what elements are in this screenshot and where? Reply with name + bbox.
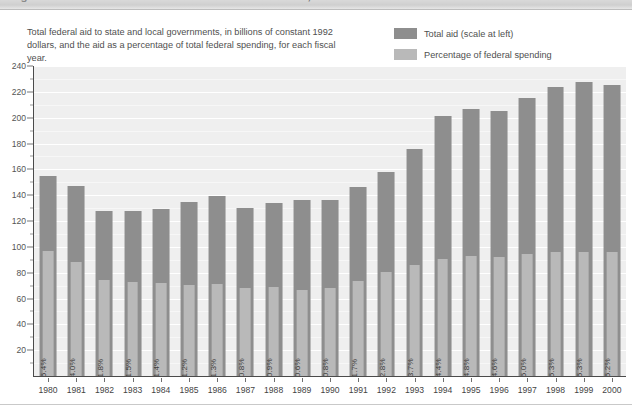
figure-title-bar: Figure 1Federal Aid to State and Local G…: [0, 0, 632, 9]
legend-swatch-percentage: [394, 49, 417, 60]
x-axis-tick: [274, 378, 275, 382]
y-axis-label: 200: [12, 113, 26, 123]
bar-group: 15.3%: [570, 66, 598, 376]
x-axis-label: 1982: [95, 385, 114, 395]
bar-percentage: 14.6%: [494, 257, 505, 376]
bar-percentage: 15.0%: [522, 254, 533, 376]
x-axis-label: 2000: [602, 385, 621, 395]
bar-percentage: 11.2%: [184, 285, 195, 376]
bar-percentage-label: 11.8%: [95, 359, 104, 376]
y-axis-label: 180: [12, 139, 26, 149]
figure-number: Figure 1: [10, 0, 56, 2]
y-axis-label: 240: [12, 61, 26, 71]
x-axis-tick: [443, 378, 444, 382]
x-axis-tick: [133, 378, 134, 382]
y-axis-label: 80: [16, 268, 26, 278]
chart-caption: Total federal aid to state and local gov…: [27, 26, 357, 66]
x-axis-label: 1990: [320, 385, 339, 395]
bar-percentage-label: 15.3%: [547, 358, 556, 376]
bar-percentage: 15.3%: [578, 252, 589, 377]
x-axis-label: 1995: [461, 385, 480, 395]
bar-percentage-label: 10.6%: [293, 358, 302, 376]
y-axis: 20406080100120140160180200220240: [0, 66, 34, 376]
bar-percentage-label: 11.4%: [152, 359, 161, 376]
bar-percentage-label: 14.8%: [462, 358, 471, 376]
bar-percentage: 15.4%: [43, 251, 54, 376]
x-axis-line: [33, 376, 626, 377]
x-axis-label: 1987: [236, 385, 255, 395]
x-axis-tick: [48, 378, 49, 382]
x-axis-tick: [161, 378, 162, 382]
x-axis-label: 1984: [151, 385, 170, 395]
legend-label-percentage: Percentage of federal spending: [424, 50, 552, 60]
bar-percentage: 10.9%: [268, 287, 279, 376]
x-axis-tick: [415, 378, 416, 382]
bar-percentage-label: 10.8%: [321, 358, 330, 376]
bar-percentage-label: 15.4%: [39, 358, 48, 376]
figure-title: Figure 1Federal Aid to State and Local G…: [10, 0, 373, 2]
x-axis-tick: [358, 378, 359, 382]
legend-item-total-aid: Total aid (scale at left): [394, 25, 626, 42]
bar-percentage: 10.8%: [240, 288, 251, 376]
y-axis-label: 40: [16, 319, 26, 329]
plot-area: 15.4%14.0%11.8%11.5%11.4%11.2%11.3%10.8%…: [34, 66, 626, 376]
x-axis-label: 1992: [377, 385, 396, 395]
x-axis-label: 1980: [39, 385, 58, 395]
bar-percentage: 10.8%: [325, 288, 336, 376]
bar-percentage-label: 14.6%: [490, 358, 499, 376]
x-axis-label: 1991: [349, 385, 368, 395]
bar-percentage-label: 14.0%: [67, 358, 76, 376]
bar-percentage-label: 12.8%: [377, 358, 386, 376]
bar-group: 15.2%: [598, 66, 626, 376]
bar-group: 14.4%: [429, 66, 457, 376]
x-axis-tick: [302, 378, 303, 382]
bar-percentage: 11.8%: [99, 280, 110, 376]
bar-percentage: 14.4%: [437, 259, 448, 376]
bar-group: 10.6%: [288, 66, 316, 376]
bar-group: 14.0%: [62, 66, 90, 376]
bar-percentage-label: 15.2%: [603, 358, 612, 376]
bar-percentage-label: 10.9%: [265, 358, 274, 376]
bar-percentage-label: 14.4%: [434, 358, 443, 376]
bar-group: 11.2%: [175, 66, 203, 376]
bar-group: 15.0%: [513, 66, 541, 376]
bar-group: 12.8%: [372, 66, 400, 376]
title-divider: [0, 9, 632, 10]
x-axis-tick: [471, 378, 472, 382]
bar-group: 10.8%: [231, 66, 259, 376]
x-axis-label: 1988: [264, 385, 283, 395]
y-axis-label: 120: [12, 216, 26, 226]
bar-percentage-label: 11.2%: [180, 359, 189, 376]
bar-percentage-label: 15.0%: [518, 358, 527, 376]
bar-percentage: 11.4%: [155, 283, 166, 376]
bar-group: 14.8%: [457, 66, 485, 376]
bar-percentage: 13.7%: [409, 265, 420, 376]
x-axis-tick: [527, 378, 528, 382]
bar-percentage-label: 11.3%: [208, 359, 217, 376]
bar-group: 10.8%: [316, 66, 344, 376]
x-axis-tick: [217, 378, 218, 382]
bar-percentage-label: 13.7%: [406, 358, 415, 376]
x-axis-label: 1986: [208, 385, 227, 395]
y-axis-label: 60: [16, 294, 26, 304]
x-axis-tick: [386, 378, 387, 382]
x-axis-tick: [556, 378, 557, 382]
x-axis-label: 1999: [574, 385, 593, 395]
x-axis-label: 1983: [123, 385, 142, 395]
bar-percentage: 11.5%: [127, 282, 138, 376]
bar-group: 15.4%: [34, 66, 62, 376]
x-axis-tick: [245, 378, 246, 382]
x-axis-tick: [330, 378, 331, 382]
x-axis-label: 1981: [67, 385, 86, 395]
x-axis-tick: [612, 378, 613, 382]
chart-legend: Total aid (scale at left) Percentage of …: [394, 25, 626, 67]
figure-title-text: Federal Aid to State and Local Governmen…: [62, 0, 373, 2]
bar-percentage: 12.8%: [381, 272, 392, 376]
bar-group: 11.8%: [90, 66, 118, 376]
bar-group: 10.9%: [260, 66, 288, 376]
x-axis-label: 1993: [405, 385, 424, 395]
bar-percentage: 15.3%: [550, 252, 561, 377]
x-axis-tick: [584, 378, 585, 382]
bar-percentage: 15.2%: [607, 252, 618, 376]
x-axis-tick: [499, 378, 500, 382]
